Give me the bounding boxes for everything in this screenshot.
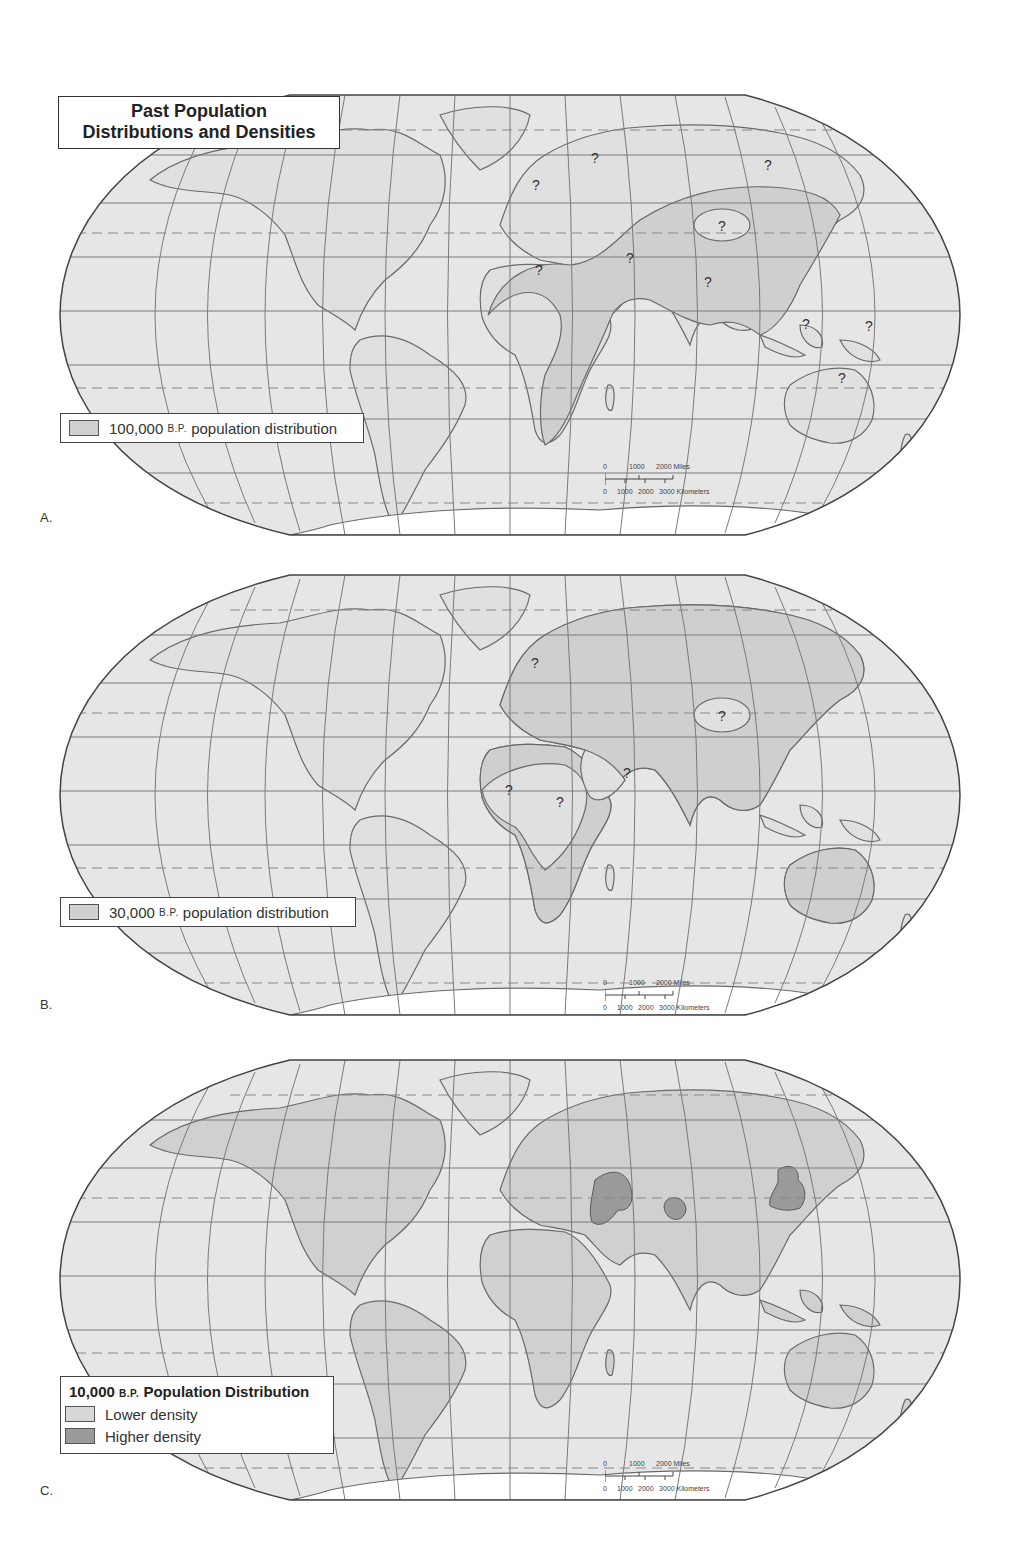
- uncertain-marker: ?: [623, 765, 631, 781]
- legend-unit: B.P.: [159, 907, 179, 918]
- uncertain-marker: ?: [764, 157, 772, 173]
- uncertain-marker: ?: [718, 218, 726, 234]
- legend-swatch-lower: [69, 420, 99, 436]
- legend-c: 10,000 B.P. Population Distribution Lowe…: [60, 1376, 334, 1454]
- map-panel-a: ? ? ? ? ? ? ? ? ? ? Past Population Dist…: [0, 85, 1028, 545]
- uncertain-marker: ?: [704, 274, 712, 290]
- uncertain-marker: ?: [531, 655, 539, 671]
- legend-swatch-lower: [69, 904, 99, 920]
- uncertain-marker: ?: [865, 318, 873, 334]
- legend-text: population distribution: [183, 904, 329, 921]
- world-map-b: ? ? ? ? ?: [0, 565, 1028, 1025]
- legend-header: 10,000 B.P. Population Distribution: [61, 1377, 333, 1403]
- scale-bar-c: 0 1000 2000 Miles 0 1000 2000 3000 Kilom…: [603, 1460, 743, 1496]
- legend-item-lower: Lower density: [61, 1403, 333, 1425]
- uncertain-marker: ?: [838, 370, 846, 386]
- legend-a: 100,000 B.P. population distribution: [60, 413, 364, 443]
- legend-text: population distribution: [191, 420, 337, 437]
- legend-item-higher: Higher density: [61, 1425, 333, 1447]
- legend-value: 100,000: [109, 420, 163, 437]
- title-line-2: Distributions and Densities: [59, 122, 339, 143]
- map-panel-c: 10,000 B.P. Population Distribution Lowe…: [0, 1050, 1028, 1510]
- panel-label-b: B.: [40, 997, 52, 1012]
- uncertain-marker: ?: [718, 708, 726, 724]
- world-map-a: ? ? ? ? ? ? ? ? ? ?: [0, 85, 1028, 545]
- panel-label-a: A.: [40, 510, 52, 525]
- uncertain-marker: ?: [532, 177, 540, 193]
- uncertain-marker: ?: [535, 262, 543, 278]
- panel-label-c: C.: [40, 1483, 53, 1498]
- uncertain-marker: ?: [626, 250, 634, 266]
- map-title: Past Population Distributions and Densit…: [58, 96, 340, 149]
- title-line-1: Past Population: [59, 101, 339, 122]
- legend-value: 30,000: [109, 904, 155, 921]
- scale-bar-b: 0 1000 2000 Miles 0 1000 2000 3000 Kilom…: [603, 979, 743, 1015]
- legend-swatch-lower: [65, 1406, 95, 1422]
- map-panel-b: ? ? ? ? ? 30,000 B.P. population distrib…: [0, 565, 1028, 1025]
- legend-swatch-higher: [65, 1428, 95, 1444]
- legend-b: 30,000 B.P. population distribution: [60, 897, 356, 927]
- legend-unit: B.P.: [167, 423, 187, 434]
- scale-bar-a: 0 1000 2000 Miles 0 1000 2000 3000 Kilom…: [603, 463, 743, 499]
- uncertain-marker: ?: [556, 794, 564, 810]
- uncertain-marker: ?: [505, 782, 513, 798]
- uncertain-marker: ?: [802, 316, 810, 332]
- uncertain-marker: ?: [591, 150, 599, 166]
